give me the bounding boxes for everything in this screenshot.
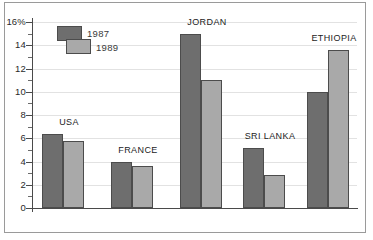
bar (264, 175, 285, 208)
legend-label-1989: 1989 (96, 43, 118, 53)
y-tick-minor (28, 103, 32, 104)
y-tick-major (26, 92, 32, 93)
y-axis-line (32, 18, 33, 212)
bar (307, 92, 328, 208)
y-tick-major (26, 45, 32, 46)
bar (201, 80, 222, 208)
y-tick-minor (28, 127, 32, 128)
bar (42, 134, 63, 208)
legend-swatch-1989 (66, 39, 91, 54)
y-tick-minor (28, 34, 32, 35)
y-tick-major (26, 115, 32, 116)
y-tick-major (26, 208, 32, 209)
y-tick-major (26, 138, 32, 139)
x-axis-line (32, 208, 358, 209)
y-tick-minor (28, 57, 32, 58)
bar (132, 166, 153, 208)
bar (180, 34, 201, 208)
y-tick-label: 16% (0, 17, 26, 27)
legend-label-1987: 1987 (87, 29, 109, 39)
bar (63, 141, 84, 208)
y-tick-label: 2 (2, 180, 26, 190)
y-tick-major (26, 69, 32, 70)
y-tick-label: 10 (2, 87, 26, 97)
y-tick-label: 12 (2, 64, 26, 74)
bar (111, 162, 132, 209)
bar (243, 148, 264, 208)
group-label: USA (33, 118, 105, 127)
y-tick-minor (28, 173, 32, 174)
group-label: SRI LANKA (234, 132, 306, 141)
y-tick-label: 14 (2, 40, 26, 50)
group-label: FRANCE (102, 146, 174, 155)
y-tick-label: 4 (2, 157, 26, 167)
y-tick-major (26, 22, 32, 23)
y-tick-minor (28, 150, 32, 151)
y-tick-minor (28, 196, 32, 197)
y-tick-label: 0 (2, 203, 26, 213)
y-tick-major (26, 162, 32, 163)
group-label: JORDAN (171, 18, 243, 27)
y-tick-major (26, 185, 32, 186)
group-label: ETHIOPIA (298, 34, 370, 43)
bar-chart-figure: 0246810121416% USAFRANCEJORDANSRI LANKAE… (0, 0, 373, 240)
bar (328, 50, 349, 208)
y-tick-label: 8 (2, 110, 26, 120)
y-tick-minor (28, 80, 32, 81)
y-tick-label: 6 (2, 133, 26, 143)
legend: 1987 1989 (57, 26, 137, 58)
